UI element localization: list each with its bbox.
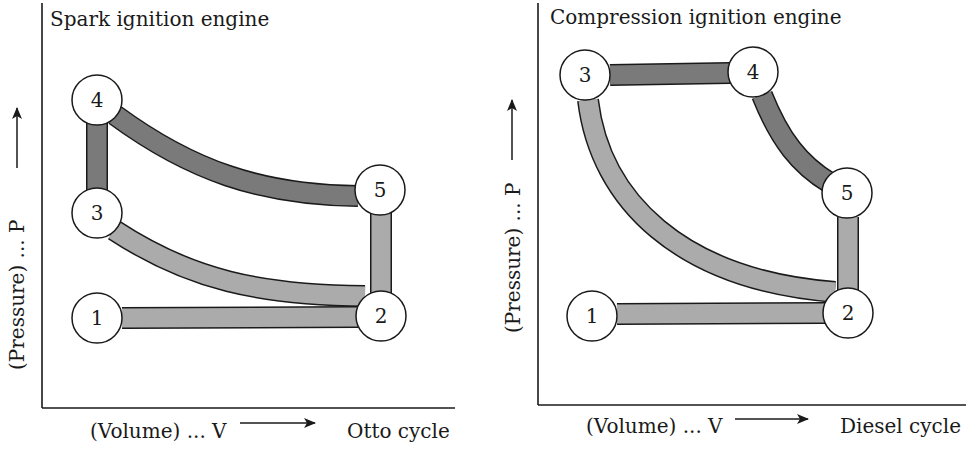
diesel-y-axis-label-group: (Pressure) ... P [501,182,525,333]
svg-text:4: 4 [91,88,104,112]
diesel-x-axis-label: (Volume) ... V [586,414,723,438]
otto-node-3: 3 [72,188,122,238]
diesel-y-axis-label: (Pressure) ... P [501,182,525,333]
diesel-cycle-panel: Compression ignition engine (Pressure) .… [501,3,966,438]
otto-path-1-2 [122,317,358,318]
svg-text:1: 1 [91,306,104,330]
otto-node-2: 2 [356,291,406,341]
svg-text:3: 3 [579,63,592,87]
diagram-canvas: Spark ignition engine (Pressure) ... P (… [0,0,972,452]
otto-cycle-label: Otto cycle [347,419,450,443]
diesel-path-3-4 [610,73,730,75]
otto-node-1: 1 [72,293,122,343]
svg-text:1: 1 [586,304,599,328]
otto-node-5: 5 [355,165,405,215]
svg-text:3: 3 [91,201,104,225]
diesel-node-5: 5 [822,168,872,218]
diesel-node-3: 3 [560,50,610,100]
svg-text:5: 5 [841,181,854,205]
otto-panel-title: Spark ignition engine [50,7,269,31]
otto-cycle-panel: Spark ignition engine (Pressure) ... P (… [5,3,455,443]
diesel-node-1: 1 [567,291,617,341]
svg-text:2: 2 [842,301,855,325]
svg-text:2: 2 [375,304,388,328]
diesel-process-paths [588,73,848,314]
diesel-path-1-2 [617,313,825,314]
diesel-node-4: 4 [728,47,778,97]
otto-y-axis-label-group: (Pressure) ... P [5,219,29,370]
svg-text:4: 4 [747,60,760,84]
otto-y-axis-label: (Pressure) ... P [5,219,29,370]
diesel-cycle-label: Diesel cycle [840,414,961,438]
diesel-node-2: 2 [823,288,873,338]
diesel-path-2-3 [588,100,835,292]
otto-x-axis-label: (Volume) ... V [90,419,227,443]
otto-process-paths [97,115,381,318]
otto-node-4: 4 [72,75,122,125]
diesel-panel-title: Compression ignition engine [550,5,842,29]
svg-text:5: 5 [374,178,387,202]
